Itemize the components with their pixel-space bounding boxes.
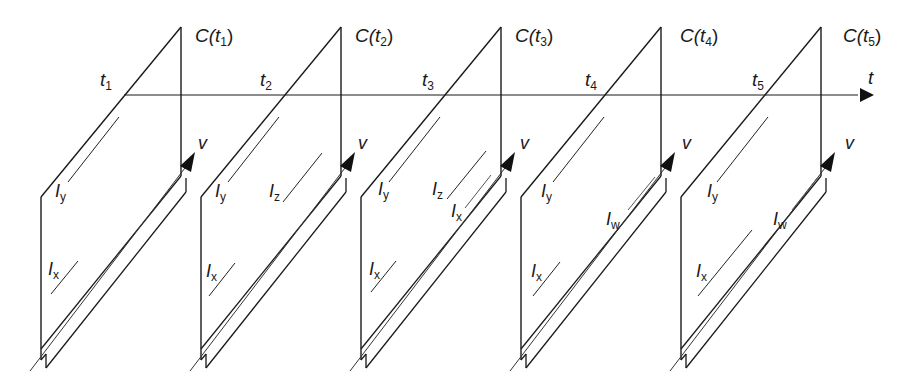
feature-label-ix-3: Ix: [369, 260, 380, 281]
feature-label-ix-2: Ix: [206, 262, 217, 283]
camera-label-3: C(t3): [515, 26, 553, 48]
velocity-label-1: v: [198, 134, 207, 152]
time-axis-arrow-icon: [860, 88, 874, 102]
feature-label-iy-2: Iy: [215, 182, 226, 203]
feature-label-ix-3b: Ix: [451, 202, 462, 223]
feature-label-iy-4: Iy: [541, 182, 552, 203]
feature-label-iw-4: Iw: [606, 210, 620, 231]
camera-label-4: C(t4): [680, 26, 718, 48]
time-label-3: t3: [422, 70, 434, 92]
line-iy-5: [717, 117, 768, 182]
line-iw-5: [792, 177, 818, 210]
camera-label-2: C(t2): [355, 26, 393, 48]
feature-label-ix-1: Ix: [48, 260, 59, 281]
feature-label-ix-4: Ix: [531, 262, 542, 283]
velocity-label-2: v: [358, 134, 367, 152]
feature-label-ix-5: Ix: [696, 262, 707, 283]
feature-label-iy-1: Iy: [55, 182, 66, 203]
velocity-label-5: v: [845, 134, 854, 152]
feature-label-iz-3: Iz: [432, 180, 443, 201]
velocity-label-4: v: [682, 134, 691, 152]
line-iz-2: [283, 153, 322, 202]
feature-label-iw-5: Iw: [773, 210, 787, 231]
time-label-2: t2: [260, 70, 272, 92]
camera-label-1: C(t1): [195, 26, 233, 48]
feature-label-iy-5: Iy: [707, 182, 718, 203]
velocity-label-3: v: [520, 134, 529, 152]
diagram-canvas: [0, 0, 916, 383]
feature-label-iy-3: Iy: [378, 180, 389, 201]
time-label-4: t4: [585, 70, 597, 92]
time-label-1: t1: [100, 70, 112, 92]
line-iy-1: [68, 117, 119, 182]
camera-label-5: C(t5): [843, 26, 881, 48]
feature-label-iz-2: Iz: [269, 182, 280, 203]
line-iz-3: [447, 151, 486, 199]
line-iy-3: [389, 117, 440, 182]
line-iw-4: [628, 177, 655, 210]
time-axis-label: t: [868, 68, 873, 87]
time-label-5: t5: [752, 70, 764, 92]
line-iy-2: [228, 117, 279, 182]
